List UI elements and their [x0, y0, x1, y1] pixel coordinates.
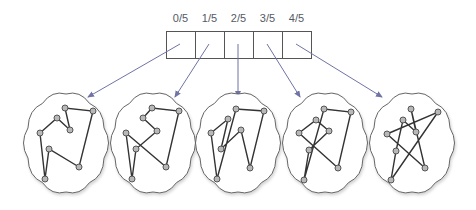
graph-node: [306, 147, 312, 153]
graph-node: [76, 164, 82, 170]
graph-node: [326, 128, 332, 134]
graph-node: [413, 129, 419, 135]
graph-node: [163, 164, 169, 170]
graph-node: [140, 115, 146, 121]
array-box-1: [196, 32, 225, 59]
graph-node: [123, 130, 129, 136]
graph-node: [247, 165, 253, 171]
arrow-0: [88, 44, 180, 97]
graph-node: [321, 106, 327, 112]
graph-node: [133, 146, 139, 152]
array-box-2: [225, 32, 254, 59]
graph-node: [400, 117, 406, 123]
graph-node: [422, 165, 428, 171]
cloud-0: [24, 93, 109, 193]
graph-node: [54, 115, 60, 121]
graph-node: [408, 106, 414, 112]
graph-node: [335, 165, 341, 171]
graph-node: [233, 106, 239, 112]
graph-node: [154, 128, 160, 134]
graph-node: [261, 108, 267, 114]
graph-node: [393, 148, 399, 154]
graph-node: [384, 131, 390, 137]
graph-node: [67, 127, 73, 133]
graph-node: [42, 176, 48, 182]
diagram-canvas: [0, 0, 476, 210]
graph-node: [238, 127, 244, 133]
arrow-3: [267, 44, 300, 97]
graph-node: [388, 177, 394, 183]
graph-node: [62, 105, 68, 111]
graph-node: [435, 109, 441, 115]
graph-node: [348, 109, 354, 115]
cloud-1: [111, 93, 196, 193]
arrows: [88, 44, 382, 97]
graph-node: [46, 146, 52, 152]
array-boxes: [167, 32, 312, 59]
graph-node: [90, 108, 96, 114]
array-box-0: [167, 32, 196, 59]
graph-node: [214, 176, 220, 182]
graph-node: [296, 130, 302, 136]
arrow-4: [296, 44, 382, 97]
graph-node: [149, 105, 155, 111]
graph-node: [37, 130, 43, 136]
clouds: [24, 93, 455, 193]
graph-node: [129, 176, 135, 182]
cloud-3: [283, 93, 368, 193]
graph-node: [176, 108, 182, 114]
cloud-2: [196, 93, 281, 193]
cloud-4: [370, 93, 455, 193]
graph-node: [313, 117, 319, 123]
graph-node: [301, 177, 307, 183]
arrow-1: [175, 44, 209, 97]
graph-node: [225, 116, 231, 122]
graph-node: [218, 146, 224, 152]
graph-node: [208, 130, 214, 136]
